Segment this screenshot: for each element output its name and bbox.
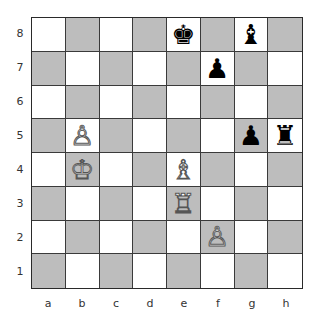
black-king-icon[interactable]: ♚ <box>171 21 195 48</box>
square-g5[interactable]: ♟ <box>235 119 269 153</box>
square-a4[interactable] <box>32 153 66 187</box>
square-h4[interactable] <box>268 153 302 187</box>
rank-label: 6 <box>13 95 27 108</box>
square-b3[interactable] <box>66 187 100 221</box>
square-b6[interactable] <box>66 86 100 120</box>
square-a1[interactable] <box>32 254 66 288</box>
square-g2[interactable] <box>235 221 269 255</box>
square-h7[interactable] <box>268 52 302 86</box>
rank-label: 4 <box>13 163 27 176</box>
square-d6[interactable] <box>133 86 167 120</box>
square-h5[interactable]: ♜ <box>268 119 302 153</box>
square-a3[interactable] <box>32 187 66 221</box>
square-f6[interactable] <box>201 86 235 120</box>
square-b2[interactable] <box>66 221 100 255</box>
square-c7[interactable] <box>100 52 134 86</box>
white-rook-icon[interactable]: ♖ <box>171 190 195 217</box>
square-b5[interactable]: ♙ <box>66 119 100 153</box>
square-f5[interactable] <box>201 119 235 153</box>
square-g6[interactable] <box>235 86 269 120</box>
square-e7[interactable] <box>167 52 201 86</box>
square-c1[interactable] <box>100 254 134 288</box>
square-c3[interactable] <box>100 187 134 221</box>
square-f7[interactable]: ♟ <box>201 52 235 86</box>
file-label: d <box>133 297 167 310</box>
black-rook-icon[interactable]: ♜ <box>273 122 297 149</box>
square-d5[interactable] <box>133 119 167 153</box>
chess-board: ♚♝♟♙♟♜♔♗♖♙ <box>31 17 303 289</box>
square-h1[interactable] <box>268 254 302 288</box>
black-bishop-icon[interactable]: ♝ <box>239 21 263 48</box>
file-label: f <box>201 297 235 310</box>
square-e3[interactable]: ♖ <box>167 187 201 221</box>
square-b1[interactable] <box>66 254 100 288</box>
square-b7[interactable] <box>66 52 100 86</box>
square-h6[interactable] <box>268 86 302 120</box>
square-e2[interactable] <box>167 221 201 255</box>
square-a2[interactable] <box>32 221 66 255</box>
square-g3[interactable] <box>235 187 269 221</box>
square-d7[interactable] <box>133 52 167 86</box>
white-pawn-icon[interactable]: ♙ <box>205 223 229 250</box>
square-e1[interactable] <box>167 254 201 288</box>
square-b8[interactable] <box>66 18 100 52</box>
square-f4[interactable] <box>201 153 235 187</box>
square-f8[interactable] <box>201 18 235 52</box>
rank-label: 3 <box>13 197 27 210</box>
square-f3[interactable] <box>201 187 235 221</box>
square-a6[interactable] <box>32 86 66 120</box>
square-c2[interactable] <box>100 221 134 255</box>
square-g7[interactable] <box>235 52 269 86</box>
square-a5[interactable] <box>32 119 66 153</box>
white-bishop-icon[interactable]: ♗ <box>171 156 195 183</box>
square-f2[interactable]: ♙ <box>201 221 235 255</box>
black-pawn-icon[interactable]: ♟ <box>205 55 229 82</box>
square-a7[interactable] <box>32 52 66 86</box>
square-c5[interactable] <box>100 119 134 153</box>
square-b4[interactable]: ♔ <box>66 153 100 187</box>
square-h3[interactable] <box>268 187 302 221</box>
file-label: g <box>235 297 269 310</box>
square-e6[interactable] <box>167 86 201 120</box>
rank-label: 1 <box>13 265 27 278</box>
square-d2[interactable] <box>133 221 167 255</box>
square-g8[interactable]: ♝ <box>235 18 269 52</box>
file-label: b <box>65 297 99 310</box>
rank-label: 8 <box>13 27 27 40</box>
file-label: h <box>269 297 303 310</box>
square-d8[interactable] <box>133 18 167 52</box>
square-d4[interactable] <box>133 153 167 187</box>
black-pawn-icon[interactable]: ♟ <box>239 122 263 149</box>
square-c8[interactable] <box>100 18 134 52</box>
square-h2[interactable] <box>268 221 302 255</box>
square-g1[interactable] <box>235 254 269 288</box>
file-label: a <box>31 297 65 310</box>
square-d3[interactable] <box>133 187 167 221</box>
square-a8[interactable] <box>32 18 66 52</box>
square-h8[interactable] <box>268 18 302 52</box>
white-pawn-icon[interactable]: ♙ <box>70 122 94 149</box>
file-label: c <box>99 297 133 310</box>
rank-label: 2 <box>13 231 27 244</box>
square-f1[interactable] <box>201 254 235 288</box>
square-e4[interactable]: ♗ <box>167 153 201 187</box>
square-d1[interactable] <box>133 254 167 288</box>
square-g4[interactable] <box>235 153 269 187</box>
square-e5[interactable] <box>167 119 201 153</box>
file-label: e <box>167 297 201 310</box>
square-c4[interactable] <box>100 153 134 187</box>
rank-label: 5 <box>13 129 27 142</box>
rank-label: 7 <box>13 61 27 74</box>
square-e8[interactable]: ♚ <box>167 18 201 52</box>
square-c6[interactable] <box>100 86 134 120</box>
white-king-icon[interactable]: ♔ <box>70 156 94 183</box>
